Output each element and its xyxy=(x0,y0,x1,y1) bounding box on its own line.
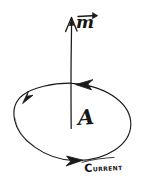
magnetic-moment-label: m xyxy=(76,14,94,31)
loop-arrowhead-top xyxy=(76,80,94,90)
current-loop-ellipse xyxy=(14,83,131,160)
magnetic-moment-arrow xyxy=(66,17,77,128)
loop-arrowhead-bottom xyxy=(66,156,83,166)
diagram-canvas xyxy=(0,0,147,180)
area-label: A xyxy=(77,106,95,128)
physics-diagram-figure: m A Current xyxy=(0,0,147,180)
loop-arrowhead-upper-left xyxy=(23,91,33,104)
current-label-rest: urrent xyxy=(93,162,123,174)
current-label: Current xyxy=(84,161,123,174)
